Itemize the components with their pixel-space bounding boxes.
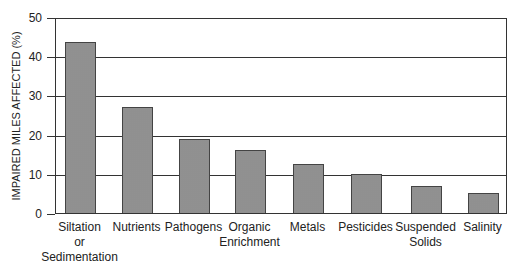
gridline bbox=[56, 96, 506, 97]
y-tick bbox=[47, 57, 55, 58]
y-tick-label: 10 bbox=[16, 169, 42, 181]
y-tick-label: 50 bbox=[16, 12, 42, 24]
y-tick bbox=[47, 214, 55, 215]
x-tick-label: Salinity bbox=[438, 220, 520, 235]
y-tick bbox=[47, 96, 55, 97]
y-tick bbox=[47, 136, 55, 137]
y-tick-label: 20 bbox=[16, 130, 42, 142]
bar bbox=[65, 42, 96, 213]
y-tick-label: 30 bbox=[16, 90, 42, 102]
bar bbox=[468, 193, 499, 213]
y-tick-label: 40 bbox=[16, 51, 42, 63]
gridline bbox=[56, 57, 506, 58]
y-tick-label: 0 bbox=[16, 208, 42, 220]
bar bbox=[351, 174, 382, 213]
bar bbox=[235, 150, 266, 213]
y-tick bbox=[47, 175, 55, 176]
plot-area bbox=[55, 18, 507, 214]
bar bbox=[122, 107, 153, 213]
bar bbox=[411, 186, 442, 213]
y-tick bbox=[47, 18, 55, 19]
bar bbox=[293, 164, 324, 213]
bar bbox=[179, 139, 210, 213]
